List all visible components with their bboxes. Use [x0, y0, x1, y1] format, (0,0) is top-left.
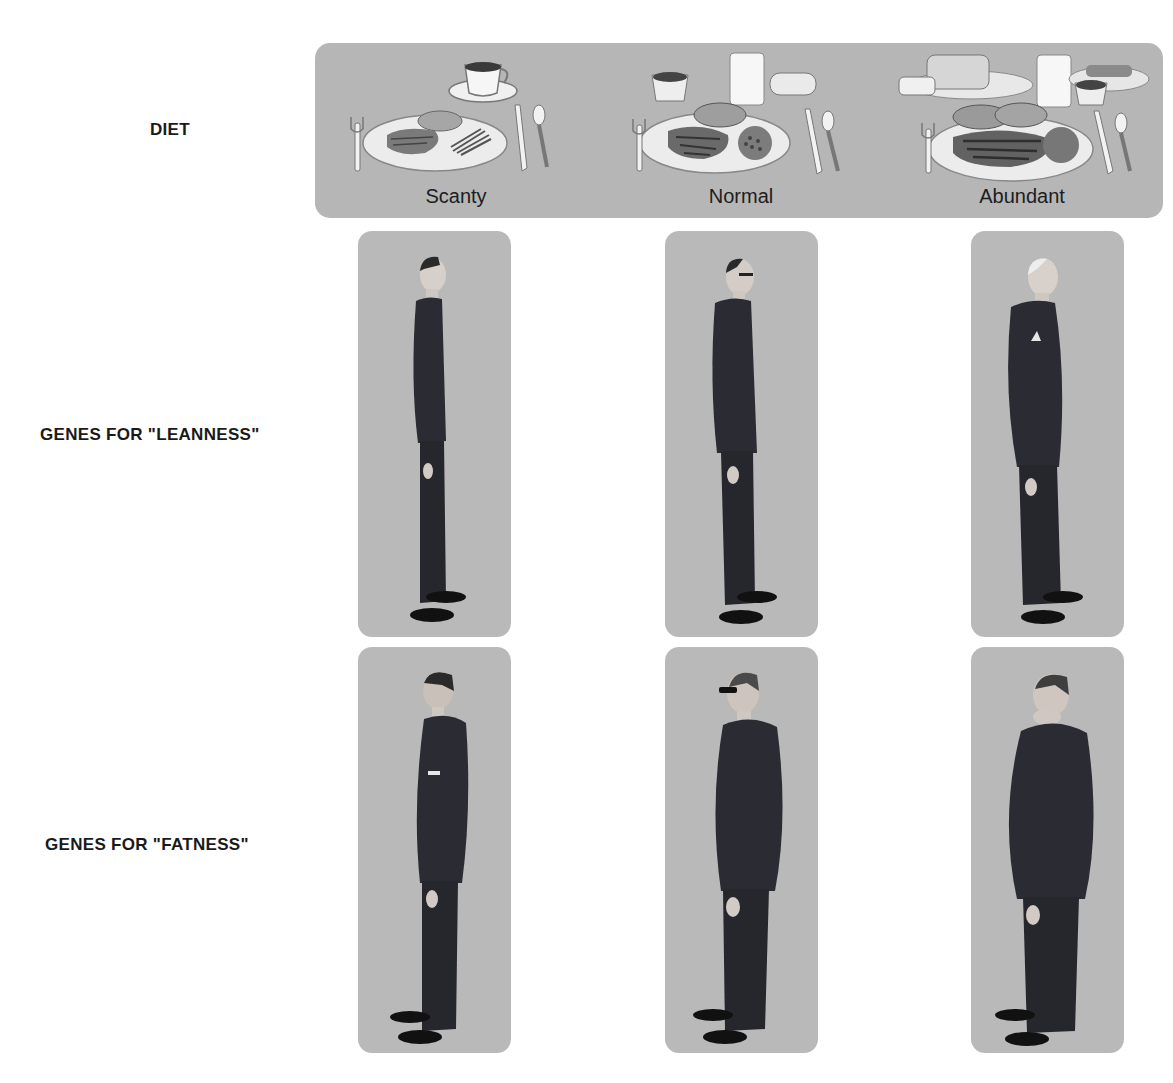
figure-lean-scanty — [358, 231, 511, 637]
diet-abundant: Abundant — [881, 43, 1163, 218]
milk-glass-icon — [1037, 55, 1071, 107]
figure-fat-normal — [665, 647, 818, 1053]
plate-icon — [640, 103, 790, 173]
figure-fat-scanty — [358, 647, 511, 1053]
diet-normal: Normal — [600, 43, 882, 218]
diet-scanty: Scanty — [315, 43, 597, 218]
figure-fat-abundant — [971, 647, 1124, 1053]
diet-panel: Scanty Normal — [315, 43, 1163, 218]
bread-roll-icon — [770, 73, 816, 95]
man-thin-figure-icon — [358, 231, 511, 637]
spoon-icon — [1115, 113, 1130, 171]
dessert-cup-icon — [652, 72, 688, 101]
man-stout-glasses-figure-icon — [665, 647, 818, 1053]
man-average-figure-icon — [358, 647, 511, 1053]
plate-icon — [929, 103, 1093, 181]
knife-icon — [1094, 111, 1113, 174]
man-slim-figure-icon — [665, 231, 818, 637]
plate-icon — [363, 111, 507, 171]
diet-label-abundant: Abundant — [881, 185, 1163, 208]
knife-icon — [515, 105, 527, 171]
row-label-genes-fatness: GENES FOR "FATNESS" — [45, 835, 249, 855]
diet-label-normal: Normal — [600, 185, 882, 208]
bread-loaf-icon — [899, 55, 1033, 99]
coffee-cup-icon — [449, 62, 517, 102]
figure-lean-normal — [665, 231, 818, 637]
dessert-cup-icon — [1075, 80, 1107, 105]
spoon-icon — [533, 105, 547, 167]
figure-lean-abundant — [971, 231, 1124, 637]
row-label-genes-leanness: GENES FOR "LEANNESS" — [40, 425, 260, 445]
man-obese-figure-icon — [971, 647, 1124, 1053]
milk-glass-icon — [730, 53, 764, 105]
knife-icon — [805, 109, 822, 174]
man-stout-figure-icon — [971, 231, 1124, 637]
diet-label-scanty: Scanty — [315, 185, 597, 208]
row-label-diet: DIET — [150, 120, 190, 140]
spoon-icon — [822, 111, 838, 171]
fork-icon — [351, 117, 363, 171]
